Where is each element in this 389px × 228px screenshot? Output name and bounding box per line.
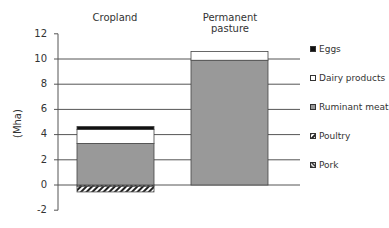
y-axis <box>54 34 58 210</box>
y-axis-label: (Mha) <box>12 109 23 138</box>
y-tick-10: 10 <box>27 53 47 64</box>
legend-label: Poultry <box>319 131 350 141</box>
legend-label: Ruminant meat <box>319 102 388 112</box>
ruminant-swatch-icon <box>310 104 316 110</box>
y-tick-4: 4 <box>27 128 47 139</box>
y-tick-neg2: -2 <box>27 204 47 215</box>
dairy-swatch-icon <box>310 75 316 81</box>
y-tick-8: 8 <box>27 78 47 89</box>
legend-item-ruminant-meat: Ruminant meat <box>310 102 388 112</box>
legend-label: Pork <box>319 160 339 170</box>
stacked-bar-chart: Cropland Permanent pasture 12 10 8 6 4 2… <box>0 0 389 228</box>
legend-item-pork: Pork <box>310 160 339 170</box>
y-tick-12: 12 <box>27 28 47 39</box>
y-tick-6: 6 <box>27 103 47 114</box>
bar-segment-dairy-products <box>191 51 268 60</box>
bar-segment-poultry <box>77 186 154 192</box>
y-tick-0: 0 <box>27 179 47 190</box>
bar-segment-ruminant-meat <box>77 143 154 185</box>
legend-item-eggs: Eggs <box>310 44 341 54</box>
category-title-permanent-pasture: Permanent pasture <box>185 12 275 34</box>
bar-segment-ruminant-meat <box>191 60 268 185</box>
bar-segment-dairy-products <box>77 130 154 144</box>
legend-label: Dairy products <box>319 73 385 83</box>
legend-item-poultry: Poultry <box>310 131 350 141</box>
legend-label: Eggs <box>319 44 341 54</box>
pork-swatch-icon <box>310 162 316 168</box>
bar-segment-eggs <box>77 126 154 129</box>
y-tick-2: 2 <box>27 154 47 165</box>
legend-item-dairy-products: Dairy products <box>310 73 385 83</box>
poultry-swatch-icon <box>310 133 316 139</box>
category-title-cropland: Cropland <box>75 12 155 23</box>
eggs-swatch-icon <box>310 46 316 52</box>
bars <box>77 51 268 191</box>
plot-area <box>0 0 389 228</box>
